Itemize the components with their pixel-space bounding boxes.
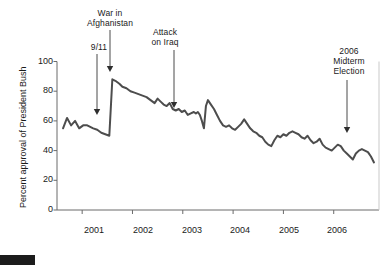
page-corner-marker (0, 255, 35, 265)
arrow-head (94, 109, 100, 115)
x-tick-label-2005: 2005 (275, 225, 303, 235)
y-tick-label-80: 80 (33, 85, 53, 95)
y-tick-label-20: 20 (33, 174, 53, 184)
annotation-arrow-attack-on-iraq (171, 50, 177, 108)
annotation-arrow-9/11 (94, 54, 100, 115)
annotation-attack-on-iraq: Attack on Iraq (137, 27, 193, 47)
annotation-911: 9/11 (86, 42, 112, 52)
arrow-head (107, 66, 113, 72)
x-tick-label-2003: 2003 (178, 225, 206, 235)
x-tick-label-2002: 2002 (129, 225, 157, 235)
annotation-war-in-afghanistan: War in Afghanistan (74, 8, 146, 28)
x-tick-label-2006: 2006 (323, 225, 351, 235)
approval-rating-chart: Percent approval of President Bush 100 8… (0, 0, 387, 268)
y-tick-label-100: 100 (33, 56, 53, 66)
data-line-approval (63, 79, 374, 162)
y-axis-label: Percent approval of President Bush (18, 66, 28, 208)
annotation-arrow-2006-midterm-election (344, 80, 350, 133)
y-tick-label-0: 0 (33, 204, 53, 214)
x-tick-label-2004: 2004 (226, 225, 254, 235)
arrow-head (344, 127, 350, 133)
y-tick-label-40: 40 (33, 145, 53, 155)
y-tick-label-60: 60 (33, 115, 53, 125)
x-tick-label-2001: 2001 (80, 225, 108, 235)
annotation-2006-midterm-election: 2006 Midterm Election (320, 46, 378, 76)
